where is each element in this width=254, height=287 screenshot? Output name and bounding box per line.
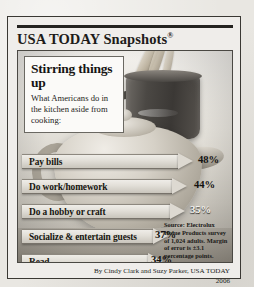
bar-track: Do work/homework — [22, 179, 172, 194]
bar-value: 35% — [190, 204, 211, 215]
bar: Do work/homework — [22, 179, 172, 194]
bar: Socialize & entertain guests — [22, 229, 153, 244]
bar-label: Pay bills — [22, 157, 62, 167]
mug-highlight — [138, 109, 178, 117]
bar-arrow-tip — [172, 178, 187, 194]
byline-credit: By Cindy Clark and Suzy Parker, USA TODA… — [94, 267, 230, 277]
headline-box: Stirring things up What Americans do in … — [24, 56, 124, 133]
source-note: Source: Electrolux Home Products survey … — [164, 221, 228, 260]
byline: By Cindy Clark and Suzy Parker, USA TODA… — [94, 267, 230, 286]
bar: Do a hobby or craft — [22, 204, 170, 219]
bar-track: Do a hobby or craft — [22, 204, 170, 219]
bar-label: Do work/homework — [22, 182, 107, 192]
bar-value: 48% — [198, 154, 219, 165]
page-title: Stirring things up — [31, 62, 118, 90]
infographic-frame: USA TODAY Snapshots® — [7, 16, 241, 279]
bar-label: Read — [22, 257, 49, 264]
mug-rim — [124, 70, 202, 82]
byline-year: 2006 — [94, 277, 230, 287]
brand-text: USA TODAY Snapshots — [17, 31, 167, 47]
bar-value: 44% — [194, 179, 215, 190]
subtitle: What Americans do in the kitchen aside f… — [31, 93, 118, 125]
bar: Read — [22, 254, 148, 263]
bar-arrow-tip — [170, 203, 185, 219]
table-row: Do work/homework 44% — [18, 176, 232, 201]
masthead-title: USA TODAY Snapshots® — [17, 28, 233, 48]
bar-track: Socialize & entertain guests — [22, 229, 153, 244]
masthead: USA TODAY Snapshots® — [17, 25, 233, 48]
registered-mark-icon: ® — [167, 31, 173, 40]
bar: Pay bills — [22, 154, 178, 169]
bar-label: Do a hobby or craft — [22, 207, 106, 217]
bar-label: Socialize & entertain guests — [22, 232, 137, 242]
scanned-clipping: USA TODAY Snapshots® — [0, 0, 254, 287]
table-row: Pay bills 48% — [18, 151, 232, 176]
bar-track: Read — [22, 254, 148, 263]
bar-track: Pay bills — [22, 154, 178, 169]
bar-arrow-tip — [178, 153, 193, 169]
chart-panel: Stirring things up What Americans do in … — [17, 50, 233, 263]
